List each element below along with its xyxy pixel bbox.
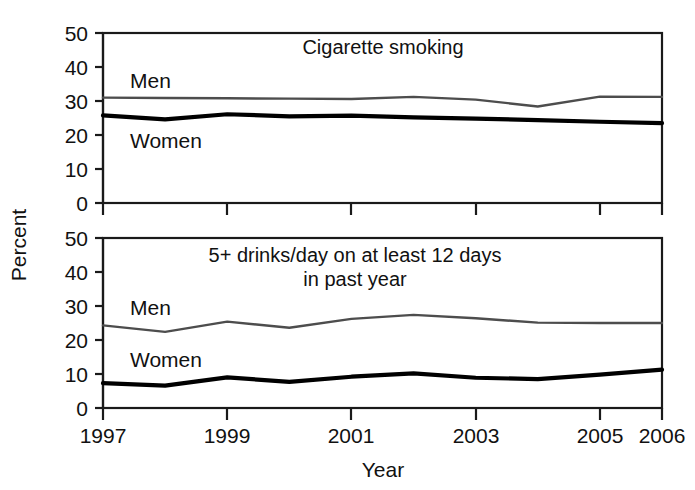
panel-title-binge-drinking-line1: 5+ drinks/day on at least 12 days (209, 244, 502, 266)
y-tick-label-20-top: 20 (65, 124, 88, 147)
series-label-women-bottom: Women (130, 348, 202, 371)
y-axis-title-text: Percent (7, 209, 30, 282)
y-tick-labels-top: 0 10 20 30 40 50 (65, 22, 88, 215)
x-tick-label-2001: 2001 (328, 424, 375, 447)
x-ticks-bottom (103, 408, 662, 420)
y-tick-label-10-bottom: 10 (65, 363, 88, 386)
x-tick-labels: 1997 1999 2001 2003 2005 2006 (80, 424, 686, 447)
y-tick-label-50-top: 50 (65, 22, 88, 45)
series-line-women-bottom (103, 370, 662, 386)
y-ticks-top (95, 33, 103, 203)
y-tick-label-0-bottom: 0 (76, 397, 88, 420)
y-axis-title: Percent (7, 209, 30, 282)
series-line-women-top (103, 114, 662, 123)
y-tick-label-40-top: 40 (65, 56, 88, 79)
x-axis-title-text: Year (362, 458, 404, 481)
x-tick-label-1999: 1999 (204, 424, 251, 447)
chart-svg: Percent 0 10 20 30 40 (0, 0, 695, 490)
panel-title-binge-drinking-line2: in past year (303, 268, 407, 290)
panel-title-cigarette-smoking: Cigarette smoking (302, 36, 463, 58)
x-tick-label-2006: 2006 (639, 424, 686, 447)
x-tick-label-2005: 2005 (577, 424, 624, 447)
panel-cigarette-smoking: 0 10 20 30 40 50 Cigarette smoking Men (65, 22, 662, 215)
x-ticks-top (103, 203, 662, 215)
panel-binge-drinking: 0 10 20 30 40 50 1997 1999 2001 2003 (65, 227, 686, 481)
y-tick-label-20-bottom: 20 (65, 329, 88, 352)
series-line-men-bottom (103, 315, 662, 332)
chart-figure: Percent 0 10 20 30 40 (0, 0, 695, 490)
series-label-men-top: Men (130, 69, 171, 92)
y-tick-labels-bottom: 0 10 20 30 40 50 (65, 227, 88, 420)
y-tick-label-30-bottom: 30 (65, 295, 88, 318)
y-tick-label-10-top: 10 (65, 158, 88, 181)
y-tick-label-50-bottom: 50 (65, 227, 88, 250)
x-tick-label-2003: 2003 (453, 424, 500, 447)
series-label-women-top: Women (130, 129, 202, 152)
y-tick-label-0-top: 0 (76, 192, 88, 215)
x-tick-label-1997: 1997 (80, 424, 127, 447)
series-line-men-top (103, 97, 662, 107)
y-tick-label-30-top: 30 (65, 90, 88, 113)
series-label-men-bottom: Men (130, 296, 171, 319)
y-tick-label-40-bottom: 40 (65, 261, 88, 284)
